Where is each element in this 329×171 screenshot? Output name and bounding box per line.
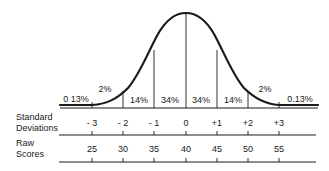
sd-value: 0	[183, 118, 188, 128]
raw-value: 25	[87, 144, 97, 154]
sd-value: - 2	[118, 118, 129, 128]
sd-value: +1	[212, 118, 222, 128]
standard-deviations-row: Standard Deviations - 3 - 2 - 1 0 +1 +2 …	[16, 112, 316, 135]
raw-value: 30	[118, 144, 128, 154]
area-label-right-34pct: 34%	[192, 95, 210, 105]
raw-value: 35	[149, 144, 159, 154]
sd-ticks	[92, 131, 279, 135]
area-label-right-14pct: 14%	[224, 95, 242, 105]
raw-row-label-line2: Scores	[16, 149, 45, 159]
area-label-left-14pct: 14%	[130, 95, 148, 105]
raw-value: 45	[212, 144, 222, 154]
raw-row-label-line1: Raw	[16, 138, 35, 148]
normal-distribution-diagram: 0 13% 2% 14% 34% 34% 14% 2% 0.13% Standa…	[0, 0, 329, 171]
raw-ticks	[92, 158, 279, 162]
sd-row-label-line1: Standard	[16, 112, 53, 122]
area-label-left-tail: 0 13%	[63, 94, 89, 104]
raw-value: 50	[243, 144, 253, 154]
sd-value: +2	[243, 118, 253, 128]
area-label-left-2pct: 2%	[98, 84, 111, 94]
sd-value: - 3	[87, 118, 98, 128]
raw-value: 40	[181, 144, 191, 154]
sd-value: - 1	[149, 118, 160, 128]
area-label-right-tail: 0.13%	[287, 94, 313, 104]
sd-row-label-line2: Deviations	[16, 123, 59, 133]
raw-scores-row: Raw Scores 25 30 35 40 45 50 55	[16, 138, 316, 162]
area-label-right-2pct: 2%	[258, 84, 271, 94]
area-label-left-34pct: 34%	[161, 95, 179, 105]
sd-value: +3	[274, 118, 284, 128]
area-labels: 0 13% 2% 14% 34% 34% 14% 2% 0.13%	[63, 84, 313, 105]
raw-value: 55	[274, 144, 284, 154]
